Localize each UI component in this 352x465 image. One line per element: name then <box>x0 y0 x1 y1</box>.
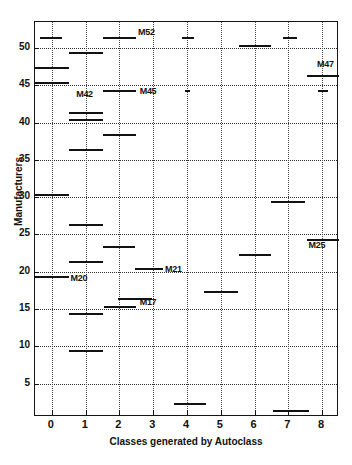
x-tick-label: 5 <box>217 418 223 430</box>
gridline-vertical <box>86 22 87 415</box>
gridline-vertical <box>255 22 256 415</box>
gridline-horizontal <box>35 160 337 161</box>
gridline-horizontal <box>35 346 337 347</box>
data-segment <box>69 313 103 315</box>
y-tick-label: 5 <box>24 377 30 388</box>
data-segment <box>185 90 191 92</box>
x-tick-label: 7 <box>284 418 290 430</box>
series-annotation-m52: M52 <box>138 27 155 37</box>
x-tick-label: 2 <box>115 418 121 430</box>
data-segment <box>307 239 339 241</box>
x-tick-label: 6 <box>251 418 257 430</box>
data-segment <box>103 90 137 92</box>
gridline-vertical <box>187 22 188 415</box>
data-segment <box>204 291 238 293</box>
y-tick-mark <box>35 309 39 310</box>
y-tick-label: 45 <box>19 78 30 89</box>
data-segment <box>271 201 305 203</box>
gridline-horizontal <box>35 384 337 385</box>
data-segment <box>35 67 69 69</box>
y-axis-title: Manufacturers <box>13 112 24 272</box>
gridline-vertical <box>221 22 222 415</box>
data-segment <box>239 45 271 47</box>
x-tick-label: 8 <box>318 418 324 430</box>
x-tick-mark <box>187 410 188 415</box>
y-tick-mark <box>35 123 39 124</box>
grid-layer <box>35 22 337 415</box>
data-segment <box>182 37 194 39</box>
y-tick-mark <box>35 197 39 198</box>
gridline-horizontal <box>35 272 337 273</box>
x-tick-mark <box>86 410 87 415</box>
data-segment <box>69 112 103 114</box>
x-tick-mark <box>255 410 256 415</box>
x-tick-mark <box>322 410 323 415</box>
gridline-horizontal <box>35 48 337 49</box>
gridline-vertical <box>52 22 53 415</box>
gridline-horizontal <box>35 123 337 124</box>
data-segment <box>35 194 69 196</box>
series-annotation-m42: M42 <box>76 89 93 99</box>
y-tick-mark <box>35 272 39 273</box>
data-segment <box>103 134 137 136</box>
y-tick-mark <box>35 346 39 347</box>
y-tick-label: 10 <box>19 339 30 350</box>
data-segment <box>307 75 339 77</box>
series-annotation-m45: M45 <box>140 86 157 96</box>
x-tick-mark <box>153 410 154 415</box>
data-segment <box>283 37 297 39</box>
y-tick-mark <box>35 234 39 235</box>
data-segment <box>69 149 103 151</box>
data-segment <box>239 254 271 256</box>
series-annotation-m17: M17 <box>140 297 157 307</box>
data-segment <box>35 82 69 84</box>
plot-area: M20M17M21M25M42M45M47M52 <box>34 21 338 416</box>
bars-layer <box>35 22 337 415</box>
y-tick-label: 15 <box>19 302 30 313</box>
data-segment <box>35 276 69 278</box>
annotations-layer: M20M17M21M25M42M45M47M52 <box>35 22 337 415</box>
series-annotation-m47: M47 <box>317 59 334 69</box>
data-segment <box>69 119 103 121</box>
x-tick-mark <box>119 410 120 415</box>
data-segment <box>318 90 328 92</box>
gridline-horizontal <box>35 309 337 310</box>
y-tick-mark <box>35 48 39 49</box>
data-segment <box>135 268 164 270</box>
data-segment <box>174 403 206 405</box>
y-tick-mark <box>35 85 39 86</box>
series-annotation-m21: M21 <box>165 264 182 274</box>
x-tick-mark <box>221 410 222 415</box>
data-segment <box>69 261 103 263</box>
gridline-horizontal <box>35 197 337 198</box>
gridline-vertical <box>288 22 289 415</box>
data-segment <box>40 37 62 39</box>
gridline-vertical <box>119 22 120 415</box>
x-axis-ticks: 012345678 <box>34 418 338 434</box>
gridline-vertical <box>153 22 154 415</box>
x-tick-mark <box>52 410 53 415</box>
data-segment <box>69 52 103 54</box>
x-tick-label: 1 <box>82 418 88 430</box>
gridline-horizontal <box>35 234 337 235</box>
x-tick-label: 4 <box>183 418 189 430</box>
data-segment <box>273 410 309 412</box>
data-segment <box>118 298 152 300</box>
data-segment <box>69 350 103 352</box>
data-segment <box>103 246 135 248</box>
x-tick-mark <box>288 410 289 415</box>
data-segment <box>104 306 136 308</box>
x-tick-label: 0 <box>48 418 54 430</box>
data-segment <box>69 224 103 226</box>
gridline-horizontal <box>35 85 337 86</box>
data-segment <box>103 37 137 39</box>
series-annotation-m25: M25 <box>309 240 326 250</box>
y-tick-mark <box>35 384 39 385</box>
gridline-vertical <box>322 22 323 415</box>
y-tick-label: 50 <box>19 41 30 52</box>
chart-figure: M20M17M21M25M42M45M47M52 510152025303540… <box>0 0 352 465</box>
x-axis-title: Classes generated by Autoclass <box>34 436 338 447</box>
series-annotation-m20: M20 <box>71 273 88 283</box>
y-tick-mark <box>35 160 39 161</box>
x-tick-label: 3 <box>149 418 155 430</box>
